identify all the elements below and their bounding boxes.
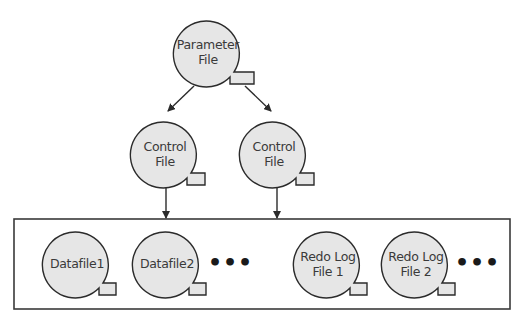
control-file-1-label: Control File xyxy=(125,139,205,169)
control-file-2-label-line2: File xyxy=(234,154,314,169)
datafile-2-label: Datafile2 xyxy=(127,256,207,271)
parameter-file-label-line1: Parameter xyxy=(168,37,248,52)
control-file-1-label-line1: Control xyxy=(125,139,205,154)
datafile-1-label-line1: Datafile1 xyxy=(37,256,117,271)
redo-log-1-label-line1: Redo Log xyxy=(288,249,368,264)
datafile-1-label: Datafile1 xyxy=(37,256,117,271)
redo-log-1-label-line2: File 1 xyxy=(288,264,368,279)
redo-logs-ellipsis-icon: ••• xyxy=(455,258,500,268)
datafiles-ellipsis-icon: ••• xyxy=(208,258,253,268)
redo-log-2-label-line1: Redo Log xyxy=(376,249,456,264)
parameter-file-label: Parameter File xyxy=(168,37,248,67)
edge-parameter-to-control2 xyxy=(245,86,271,111)
datafile-2-label-line1: Datafile2 xyxy=(127,256,207,271)
control-file-2-label-line1: Control xyxy=(234,139,314,154)
redo-log-1-label: Redo Log File 1 xyxy=(288,249,368,279)
redo-log-2-label-line2: File 2 xyxy=(376,264,456,279)
edge-parameter-to-control1 xyxy=(168,86,194,111)
redo-log-2-label: Redo Log File 2 xyxy=(376,249,456,279)
parameter-file-label-line2: File xyxy=(168,52,248,67)
control-file-2-label: Control File xyxy=(234,139,314,169)
control-file-1-label-line2: File xyxy=(125,154,205,169)
